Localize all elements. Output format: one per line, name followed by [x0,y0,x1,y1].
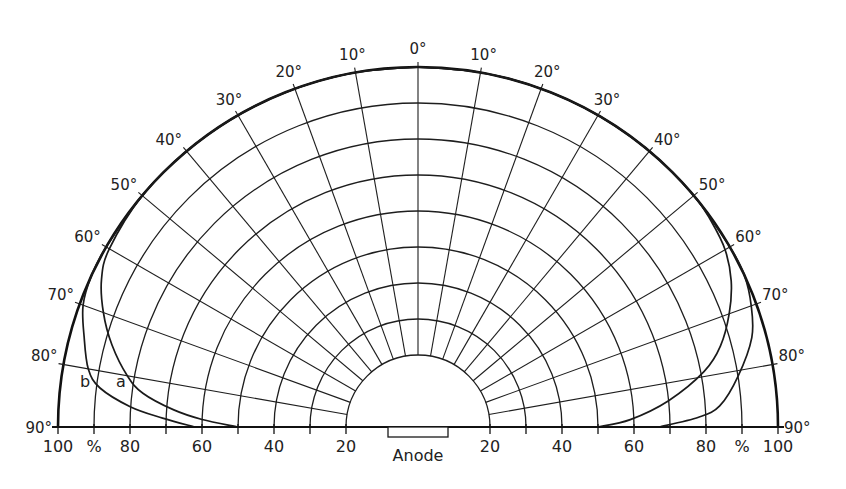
polar-chart-svg: 0°10°20°30°40°50°60°70°80°90°10°20°30°40… [0,0,846,489]
radial-label-right-20: 20 [480,437,500,456]
radial-line-left-30 [236,111,383,365]
radial-label-left-100: 100 [43,437,74,456]
angle-label-left-80: 80° [31,347,58,365]
angle-label-left-30: 30° [216,91,243,109]
angle-label-right-10: 10° [470,46,497,64]
radial-label-right-60: 60 [624,437,644,456]
angle-label-right-40: 40° [654,131,681,149]
angle-label-right-50: 50° [699,176,726,194]
radial-line-left-40 [183,147,371,371]
angle-label-right-60: 60° [735,228,762,246]
angle-label-right-80: 80° [779,347,806,365]
radial-label-right-pct: % [734,437,749,456]
angle-label-left-60: 60° [74,228,101,246]
radial-label-right-40: 40 [552,437,572,456]
radial-label-right-100: 100 [763,437,794,456]
radial-line-left-50 [138,192,362,380]
curve-b [83,67,418,427]
angle-label-right-90: 90° [784,419,811,437]
angle-label-left-90: 90° [25,419,52,437]
polar-diagram: 0°10°20°30°40°50°60°70°80°90°10°20°30°40… [0,0,846,489]
anode-symbol [388,427,448,437]
radial-line-right-30 [454,111,601,365]
radial-label-left-40: 40 [264,437,284,456]
angle-label-left-20: 20° [275,63,302,81]
radial-label-right-80: 80 [696,437,716,456]
radial-line-right-70 [486,302,761,402]
angle-label-left-50: 50° [111,176,138,194]
grid-arc-20 [346,355,490,427]
radial-line-right-40 [464,147,652,371]
radial-label-left-pct: % [86,437,101,456]
radial-line-right-60 [480,245,734,392]
radial-label-left-60: 60 [192,437,212,456]
radial-line-right-50 [473,192,697,380]
angle-label-left-10: 10° [339,46,366,64]
angle-label-right-30: 30° [594,91,621,109]
angle-label-right-20: 20° [534,63,561,81]
radial-line-left-60 [102,245,356,392]
angle-label-right-0: 0° [409,40,426,58]
radial-line-right-20 [443,84,543,359]
curve-a-label: a [116,372,126,391]
radial-label-left-80: 80 [120,437,140,456]
angle-label-left-70: 70° [47,286,74,304]
anode-label: Anode [393,446,444,465]
angle-label-left-40: 40° [155,131,182,149]
curve-b-label: b [80,372,90,391]
angular-grid-lines [58,62,778,434]
radial-line-left-20 [293,84,393,359]
radial-label-left-20: 20 [336,437,356,456]
angle-label-right-70: 70° [762,286,789,304]
